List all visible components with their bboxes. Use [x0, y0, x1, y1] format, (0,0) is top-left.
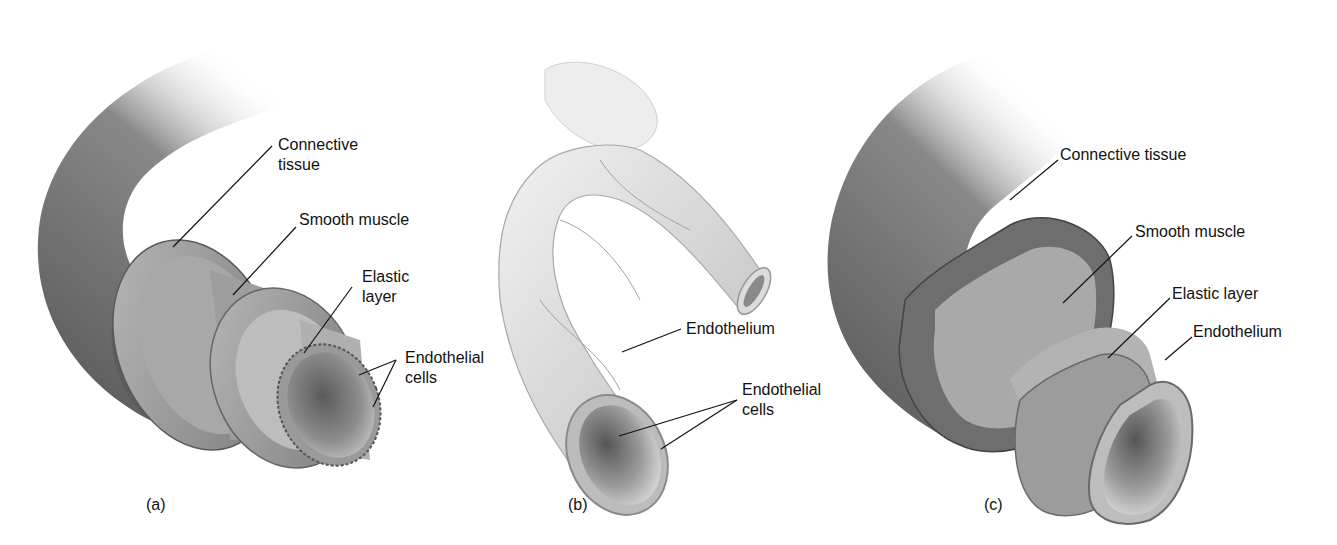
label-line: Connective	[278, 135, 358, 155]
label-line: Smooth muscle	[299, 210, 409, 230]
vein-illustration	[828, 40, 1193, 524]
label-endothelial-cells-b: Endothelial cells	[742, 380, 821, 420]
label-line: Smooth muscle	[1135, 222, 1245, 242]
label-line: Endothelium	[686, 319, 775, 339]
caption-b: (b)	[568, 496, 588, 514]
caption-a: (a)	[146, 496, 166, 514]
label-line: tissue	[278, 155, 358, 175]
label-line: Connective tissue	[1060, 145, 1186, 165]
label-connective-tissue-a: Connective tissue	[278, 135, 358, 175]
label-endothelium-c: Endothelium	[1193, 322, 1282, 342]
blood-vessel-diagram: Connective tissue Smooth muscle Elastic …	[0, 0, 1337, 545]
label-smooth-muscle-a: Smooth muscle	[299, 210, 409, 230]
artery-illustration	[38, 35, 397, 489]
label-elastic-layer-a: Elastic layer	[362, 267, 409, 307]
label-line: cells	[742, 400, 821, 420]
label-elastic-layer-c: Elastic layer	[1172, 284, 1258, 304]
label-smooth-muscle-c: Smooth muscle	[1135, 222, 1245, 242]
capillary-illustration	[499, 62, 778, 531]
label-line: Endothelial	[742, 380, 821, 400]
label-connective-tissue-c: Connective tissue	[1060, 145, 1186, 165]
label-line: Endothelium	[1193, 322, 1282, 342]
leader-lines-b	[619, 329, 737, 449]
label-line: layer	[362, 287, 409, 307]
label-endothelium-b: Endothelium	[686, 319, 775, 339]
label-endothelial-cells-a: Endothelial cells	[405, 348, 484, 388]
label-line: cells	[405, 368, 484, 388]
caption-c: (c)	[984, 496, 1003, 514]
label-line: Elastic	[362, 267, 409, 287]
label-line: Endothelial	[405, 348, 484, 368]
label-line: Elastic layer	[1172, 284, 1258, 304]
vessel-illustrations	[0, 0, 1337, 545]
